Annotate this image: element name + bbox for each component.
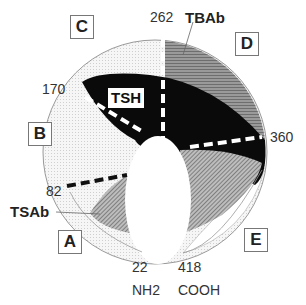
residue-360: 360 [270,130,293,144]
region-label-d: D [235,32,259,56]
tsab-label: TSAb [10,204,49,219]
residue-82: 82 [46,184,62,198]
residue-262: 262 [150,10,173,24]
residue-418: 418 [178,260,201,274]
region-label-e: E [244,228,268,252]
residue-22: 22 [132,260,148,274]
region-label-a: A [58,230,82,254]
residue-170: 170 [42,82,65,96]
receptor-diagram [0,0,306,305]
tbab-label: TBAb [185,10,225,25]
region-label-b: B [28,122,52,146]
carboxyl-terminus-label: COOH [178,283,220,297]
region-label-c: C [70,15,94,39]
amino-terminus-label: NH2 [132,283,160,297]
tsh-label: TSH [108,88,144,108]
central-domain [125,136,191,264]
